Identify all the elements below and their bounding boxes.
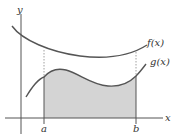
shaded-region [44,69,136,118]
a-label: a [41,123,47,134]
area-between-curves-diagram: y x f(x) g(x) a b [0,0,178,136]
b-label: b [133,123,139,134]
g-label: g(x) [150,56,170,67]
f-curve [12,26,147,57]
y-axis-label: y [16,4,23,15]
f-label: f(x) [146,37,164,48]
x-axis-label: x [165,112,171,123]
